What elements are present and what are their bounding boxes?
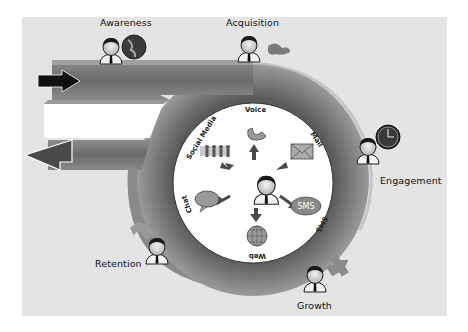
- stage-label-acquisition: Acquisition: [226, 17, 279, 28]
- awareness-person-icon: [100, 38, 122, 64]
- stage-label-retention: Retention: [95, 258, 142, 269]
- acquisition-person-icon: [238, 36, 260, 62]
- stage-label-growth: Growth: [297, 300, 332, 311]
- sms-bubble-text: SMS: [297, 202, 314, 211]
- handshake-icon: [268, 43, 290, 54]
- clock-icon: [376, 125, 400, 149]
- envelope-icon: [291, 144, 313, 159]
- stage-label-awareness: Awareness: [100, 17, 152, 28]
- lifecycle-diagram: Voice Mail SMS Web Chat Social Media SMS: [0, 0, 468, 332]
- channel-label-voice: Voice: [245, 106, 266, 114]
- globe-grid-icon: [247, 226, 267, 246]
- globe-icon: [122, 35, 146, 59]
- channel-label-web: Web: [249, 252, 266, 260]
- loop-gap: [44, 104, 163, 138]
- stage-label-engagement: Engagement: [380, 175, 442, 186]
- people-group-icon: [200, 145, 230, 157]
- entry-band: [52, 60, 253, 100]
